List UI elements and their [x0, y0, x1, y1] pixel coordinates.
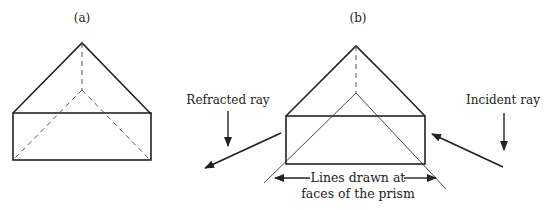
prism-b-front-face [286, 116, 425, 164]
faces-label-line1: Lines drawn at [311, 170, 406, 185]
panel-a-label: (a) [74, 11, 91, 25]
prism-diagram: (a) (b) Refracted ray [0, 0, 550, 210]
faces-annotation: Lines drawn at faces of the prism [275, 170, 436, 201]
faces-label-line2: faces of the prism [301, 186, 415, 201]
incident-ray-arrow-icon [432, 134, 503, 167]
incident-ray-label: Incident ray [466, 93, 540, 107]
diagram-svg: (a) (b) Refracted ray [0, 0, 550, 210]
incident-ray-group: Incident ray [432, 93, 540, 167]
prism-a: (a) [13, 11, 151, 161]
panel-b-label: (b) [349, 11, 366, 25]
prism-b: (b) [264, 11, 446, 189]
refracted-ray-label: Refracted ray [186, 93, 270, 107]
prism-a-front-face [13, 113, 151, 160]
prism-a-hidden-edges [13, 43, 151, 161]
refracted-ray-group: Refracted ray [186, 93, 281, 168]
refracted-ray-arrow-icon [205, 133, 281, 168]
